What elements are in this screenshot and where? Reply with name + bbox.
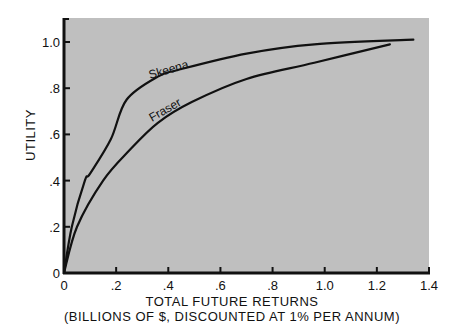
y-tick-label: .2 xyxy=(49,220,60,235)
x-tick-label: .6 xyxy=(215,278,226,293)
x-tick-label: 1.2 xyxy=(368,278,386,293)
plot-area xyxy=(64,18,429,273)
x-tick-label: .4 xyxy=(163,278,174,293)
y-tick-label: .8 xyxy=(49,81,60,96)
x-tick-label: .8 xyxy=(267,278,278,293)
y-tick-label: 0 xyxy=(53,266,60,281)
utility-chart: 0.2.4.6.81.01.21.4 0.2.4.6.81.0 SkeenaFr… xyxy=(0,0,452,335)
y-axis-title: UTILITY xyxy=(23,109,38,161)
x-tick-label: .2 xyxy=(111,278,122,293)
x-tick-label: 1.4 xyxy=(420,278,438,293)
y-tick-label: .6 xyxy=(49,127,60,142)
y-tick-label: .4 xyxy=(49,174,60,189)
y-tick-label: 1.0 xyxy=(42,35,60,50)
x-tick-label: 1.0 xyxy=(316,278,334,293)
x-axis-subtitle: (BILLIONS OF $, DISCOUNTED AT 1% PER ANN… xyxy=(64,309,400,324)
x-axis-title: TOTAL FUTURE RETURNS xyxy=(146,294,319,309)
x-tick-label: 0 xyxy=(60,278,67,293)
